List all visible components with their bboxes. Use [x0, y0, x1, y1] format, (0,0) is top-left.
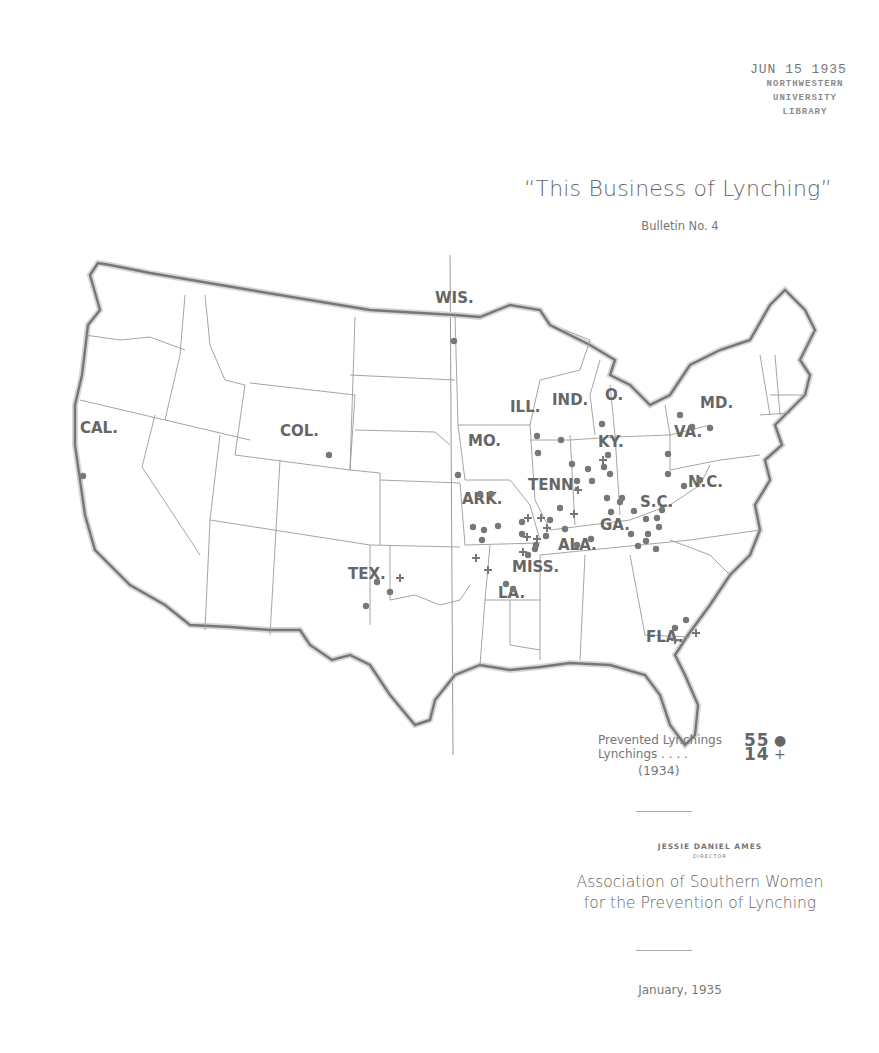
prevented-dot-icon — [574, 542, 580, 548]
prevented-dot-icon — [608, 509, 614, 515]
lynching-cross-icon — [533, 535, 541, 543]
prevented-dot-icon — [588, 536, 594, 542]
prevented-dot-icon — [707, 425, 713, 431]
organization-line-2: for the Prevention of Lynching — [520, 893, 879, 914]
state-label: MO. — [468, 432, 501, 450]
prevented-dot-icon — [681, 483, 687, 489]
prevented-dot-icon — [495, 523, 501, 529]
prevented-dot-icon — [488, 491, 494, 497]
prevented-dot-icon — [607, 471, 613, 477]
prevented-dot-icon — [510, 586, 516, 592]
legend-label-prevented: Prevented Lynchings — [598, 733, 744, 747]
lynching-cross-icon — [570, 510, 578, 518]
prevented-dot-icon — [479, 537, 485, 543]
issue-date: January, 1935 — [560, 983, 800, 997]
stamp-line-2: UNIVERSITY — [730, 91, 879, 105]
prevented-dot-icon — [363, 603, 369, 609]
prevented-dot-icon — [519, 519, 525, 525]
prevented-dot-icon — [619, 495, 625, 501]
prevented-dot-icon — [589, 478, 595, 484]
prevented-dot-icon — [470, 524, 476, 530]
state-label: GA. — [600, 516, 630, 534]
prevented-dot-icon — [557, 505, 563, 511]
state-label: VA. — [674, 423, 702, 441]
organization-name: Association of Southern Women for the Pr… — [520, 872, 879, 914]
country-outline — [75, 263, 815, 745]
prevented-dot-icon — [683, 617, 689, 623]
state-label: S.C. — [640, 493, 673, 511]
legend-year: (1934) — [598, 763, 858, 778]
prevented-dot-icon — [654, 515, 660, 521]
prevented-dot-icon — [574, 478, 580, 484]
lynching-cross-icon — [543, 524, 551, 532]
state-label: KY. — [598, 433, 624, 451]
divider-2 — [636, 950, 692, 951]
prevented-dot-icon — [451, 338, 457, 344]
prevented-dot-icon — [326, 452, 332, 458]
lynching-cross-icon — [472, 554, 480, 562]
prevented-dot-icon — [672, 625, 678, 631]
prevented-dot-icon — [659, 507, 665, 513]
prevented-dot-icon — [645, 531, 651, 537]
library-stamp: JUN 15 1935 NORTHWESTERN UNIVERSITY LIBR… — [730, 62, 879, 119]
prevented-dot-icon — [653, 546, 659, 552]
divider-1 — [636, 811, 692, 812]
state-label: IND. — [552, 391, 588, 409]
us-map: WIS.CAL.COL.ILL.IND.O.MD.MO.KY.VA.N.C.TE… — [70, 255, 830, 755]
lynching-cross-icon — [524, 514, 532, 522]
document-title: “This Business of Lynching” — [498, 176, 858, 201]
map-legend: Prevented Lynchings 55 ● Lynchings . . .… — [598, 733, 858, 778]
prevented-dot-icon — [534, 433, 540, 439]
bulletin-number: Bulletin No. 4 — [560, 219, 800, 233]
state-label: ILL. — [510, 398, 540, 416]
prevented-dot-icon — [643, 516, 649, 522]
stamp-date: JUN 15 1935 — [730, 62, 879, 77]
prevented-dot-icon — [697, 477, 703, 483]
state-label: FLA. — [646, 628, 683, 646]
prevented-dot-icon — [599, 421, 605, 427]
state-label: MD. — [700, 394, 733, 412]
prevented-dot-icon — [643, 538, 649, 544]
lynching-cross-icon — [484, 566, 492, 574]
legend-count-lynchings: 14 — [744, 744, 770, 764]
stamp-line-3: LIBRARY — [730, 105, 879, 119]
state-label: COL. — [280, 422, 319, 440]
prevented-dot-icon — [387, 589, 393, 595]
prevented-dot-icon — [604, 495, 610, 501]
prevented-dot-icon — [605, 452, 611, 458]
state-labels: WIS.CAL.COL.ILL.IND.O.MD.MO.KY.VA.N.C.TE… — [80, 289, 733, 646]
lynching-cross-icon — [396, 574, 404, 582]
state-label: O. — [605, 386, 623, 404]
state-label: N.C. — [688, 473, 723, 491]
legend-label-lynchings: Lynchings . . . . — [598, 747, 744, 761]
prevented-dot-icon — [631, 508, 637, 514]
state-label: TENN. — [528, 476, 579, 494]
prevented-dot-icon — [535, 450, 541, 456]
prevented-dot-icon — [628, 531, 634, 537]
prevented-dot-icon — [374, 579, 380, 585]
stamp-line-1: NORTHWESTERN — [730, 77, 879, 91]
prevented-dot-icon — [543, 533, 549, 539]
prevented-dot-icon — [455, 472, 461, 478]
prevented-dot-icon — [601, 464, 607, 470]
prevented-dot-icon — [665, 471, 671, 477]
prevented-dot-icon — [665, 451, 671, 457]
state-label: MISS. — [512, 558, 559, 576]
prevented-dot-icon — [569, 461, 575, 467]
prevented-dot-icon — [562, 526, 568, 532]
prevented-dot-icon — [477, 491, 483, 497]
state-label: TEX. — [348, 565, 386, 583]
prevented-dot-icon — [677, 412, 683, 418]
state-label: CAL. — [80, 419, 118, 437]
state-label: WIS. — [435, 289, 474, 307]
prevented-dot-icon — [503, 581, 509, 587]
director-block: JESSIE DANIEL AMES DIRECTOR — [580, 842, 840, 859]
prevented-dot-icon — [585, 466, 591, 472]
lynching-cross-icon — [537, 514, 545, 522]
cross-icon: + — [770, 746, 786, 762]
prevented-dot-icon — [656, 524, 662, 530]
legend-row-prevented: Prevented Lynchings 55 ● — [598, 733, 858, 747]
prevented-dot-icon — [80, 473, 86, 479]
director-role: DIRECTOR — [580, 853, 840, 859]
prevented-dot-icon — [481, 527, 487, 533]
